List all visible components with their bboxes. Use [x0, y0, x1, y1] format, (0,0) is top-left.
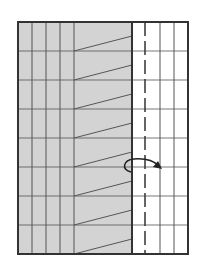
folding-diagram [0, 0, 206, 268]
